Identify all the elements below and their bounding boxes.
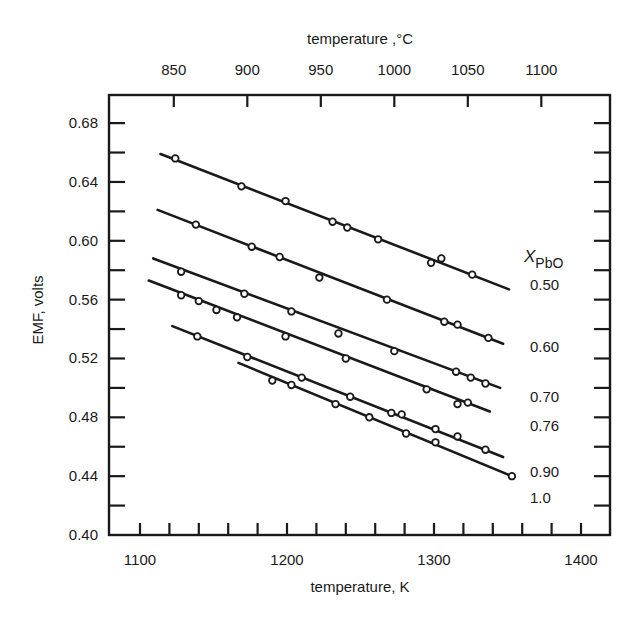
data-series [149, 154, 515, 479]
y-tick-label: 0.48 [69, 408, 98, 425]
legend: XPbO 0.500.600.700.760.901.0 [523, 247, 563, 506]
legend-label: 1.0 [530, 489, 551, 506]
data-point-marker [398, 411, 405, 418]
data-point-marker [391, 348, 398, 355]
data-point-marker [453, 368, 460, 375]
data-point-marker [384, 296, 391, 303]
y-tick-label: 0.40 [69, 526, 98, 543]
x2-axis-title: temperature ,°C [307, 30, 413, 47]
data-point-marker [432, 439, 439, 446]
data-point-marker [288, 308, 295, 315]
data-point-marker [438, 255, 445, 262]
data-point-marker [269, 377, 276, 384]
data-point-marker [467, 374, 474, 381]
data-point-marker [441, 318, 448, 325]
data-point-marker [335, 330, 342, 337]
legend-label: 0.60 [530, 338, 559, 355]
data-point-marker [465, 399, 472, 406]
legend-label: 0.90 [530, 463, 559, 480]
data-point-marker [366, 414, 373, 421]
emf-temperature-chart: 0.400.440.480.520.560.600.640.68 1100120… [0, 0, 644, 625]
y-tick-label: 0.52 [69, 349, 98, 366]
y-tick-label: 0.64 [69, 173, 98, 190]
legend-label: 0.76 [530, 417, 559, 434]
x-axis-celsius: 850900950100010501100 [161, 61, 557, 107]
y-tick-label: 0.44 [69, 467, 98, 484]
data-point-marker [347, 393, 354, 400]
data-point-marker [238, 183, 245, 190]
series-0-50 [161, 154, 509, 289]
data-point-marker [194, 333, 201, 340]
x2-tick-label: 1000 [378, 61, 411, 78]
legend-title: XPbO [523, 247, 563, 271]
x2-tick-label: 850 [161, 61, 186, 78]
x2-tick-label: 950 [308, 61, 333, 78]
x2-tick-label: 1100 [525, 61, 557, 78]
data-point-marker [388, 410, 395, 417]
x-axis-title: temperature, K [310, 578, 409, 595]
data-point-marker [241, 290, 248, 297]
x-axis-kelvin: 1100120013001400 [124, 523, 598, 568]
data-point-marker [482, 380, 489, 387]
x2-tick-label: 900 [235, 61, 260, 78]
y-tick-label: 0.56 [69, 291, 98, 308]
data-point-marker [485, 335, 492, 342]
data-point-marker [282, 333, 289, 340]
x-tick-label: 1400 [564, 551, 597, 568]
legend-label: 0.70 [530, 388, 559, 405]
y-tick-label: 0.68 [69, 114, 98, 131]
data-point-marker [343, 355, 350, 362]
data-point-marker [375, 236, 382, 243]
data-point-marker [288, 382, 295, 389]
x-tick-label: 1300 [417, 551, 450, 568]
data-point-marker [509, 473, 516, 480]
legend-label: 0.50 [530, 276, 559, 293]
data-point-marker [344, 224, 351, 231]
y-tick-label: 0.60 [69, 232, 98, 249]
data-point-marker [454, 433, 461, 440]
data-point-marker [276, 254, 283, 261]
data-point-marker [282, 198, 289, 205]
data-point-marker [248, 243, 255, 250]
x-tick-label: 1200 [270, 551, 303, 568]
data-point-marker [234, 314, 241, 321]
data-point-marker [454, 321, 461, 328]
data-point-marker [244, 354, 251, 361]
x2-tick-label: 1050 [451, 61, 484, 78]
data-point-marker [178, 268, 185, 275]
series-0-76 [149, 281, 490, 412]
data-point-marker [432, 426, 439, 433]
data-point-marker [329, 218, 336, 225]
data-point-marker [469, 271, 476, 278]
data-point-marker [403, 430, 410, 437]
data-point-marker [332, 401, 339, 408]
series-0-90 [172, 326, 503, 457]
data-point-marker [172, 155, 179, 162]
x-tick-label: 1100 [124, 551, 156, 568]
data-point-marker [196, 298, 203, 305]
data-point-marker [316, 274, 323, 281]
data-point-marker [213, 307, 220, 314]
data-point-marker [482, 446, 489, 453]
data-point-marker [178, 292, 185, 299]
data-point-marker [298, 374, 305, 381]
data-point-marker [454, 401, 461, 408]
data-point-marker [428, 260, 435, 267]
data-point-marker [193, 221, 200, 228]
data-point-marker [423, 386, 430, 393]
y-axis-title: EMF, volts [29, 275, 46, 344]
